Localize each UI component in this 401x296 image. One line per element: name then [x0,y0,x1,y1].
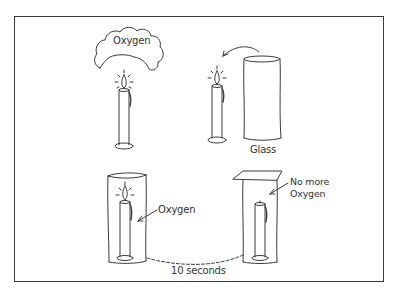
curved-arrow-icon [223,47,259,56]
oxygen-cloud-label: Oxygen [113,36,150,46]
glass-label: Glass [250,145,276,155]
arrow-icon [138,210,157,221]
extinguished-candle-icon [252,201,268,261]
oxygen-inside-label: Oxygen [158,205,195,215]
glass-with-lid-icon [233,171,282,264]
time-elapsed-label: 10 seconds [171,266,226,276]
candle-oxygen-illustration [0,0,401,296]
no-more-oxygen-label-line1: No more [290,177,329,187]
lit-candle-icon [208,66,226,143]
arrow-icon [270,183,288,194]
lit-candle-icon [115,70,133,149]
no-more-oxygen-label-line2: Oxygen [290,189,325,199]
oxygen-cloud-icon [95,27,164,70]
lit-candle-icon [116,182,134,261]
glass-icon [244,56,281,140]
dashed-connector [147,255,243,264]
